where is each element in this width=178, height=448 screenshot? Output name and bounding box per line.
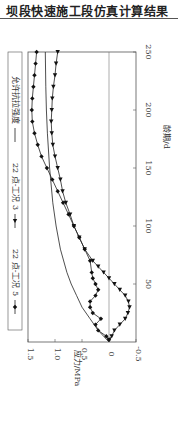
diamond-marker-icon <box>45 166 49 170</box>
triangle-marker-icon <box>112 328 116 332</box>
triangle-marker-icon <box>60 189 64 193</box>
triangle-marker-icon <box>49 120 53 124</box>
series-line-2 <box>51 52 129 340</box>
diamond-marker-icon <box>91 276 95 280</box>
diamond-marker-icon <box>31 85 35 89</box>
diamond-marker-icon <box>30 119 34 123</box>
triangle-marker-icon <box>56 166 60 170</box>
x-tick-label: 50 <box>144 279 153 289</box>
diamond-marker-icon <box>56 189 60 193</box>
y-axis-label: 应力/MPa <box>73 350 83 387</box>
triangle-marker-icon <box>50 131 54 135</box>
diamond-marker-icon <box>30 96 34 100</box>
x-tick-label: 150 <box>144 160 153 175</box>
triangle-marker-icon <box>50 108 54 112</box>
triangle-marker-icon <box>51 143 55 147</box>
x-tick-label: 250 <box>144 44 153 59</box>
triangle-marker-icon <box>123 294 127 298</box>
y-tick-label: -0.5 <box>134 346 143 361</box>
x-axis-label: 龄期/d <box>162 125 172 149</box>
y-tick-label: 1.5 <box>26 348 35 361</box>
legend-label-1: 22 点-工况 5 <box>11 249 20 296</box>
triangle-marker-icon <box>54 62 58 66</box>
diamond-marker-icon <box>36 143 40 147</box>
triangle-marker-icon <box>126 311 130 315</box>
series-line-1 <box>32 52 109 340</box>
triangle-marker-icon <box>127 305 131 309</box>
triangle-marker-icon <box>53 73 57 77</box>
legend-label-2: 22 点-工况 3 <box>11 163 20 210</box>
diamond-marker-icon <box>39 154 43 158</box>
y-tick-label: 0 <box>107 351 116 356</box>
stress-age-chart: -0.500.51.01.550100150200250应力/MPa龄期/d22… <box>0 20 178 448</box>
page-header: 坝段快速施工段仿真计算结果 <box>0 0 178 19</box>
diamond-marker-icon <box>96 288 100 292</box>
diamond-marker-icon <box>30 108 34 112</box>
triangle-marker-icon <box>51 85 55 89</box>
diamond-marker-icon <box>33 61 37 65</box>
triangle-marker-icon <box>58 178 62 182</box>
series-line-3 <box>45 52 109 342</box>
diamond-marker-icon <box>88 305 92 309</box>
y-tick-label: 1.0 <box>53 348 62 361</box>
page-title: 坝段快速施工段仿真计算结果 <box>6 2 169 19</box>
x-tick-label: 100 <box>144 218 153 233</box>
diamond-marker-icon <box>32 73 36 77</box>
triangle-marker-icon <box>53 154 57 158</box>
legend-label-3: 允许抗拉强度 <box>11 76 21 124</box>
triangle-marker-icon <box>126 299 130 303</box>
x-tick-label: 200 <box>144 102 153 117</box>
triangle-marker-icon <box>50 96 54 100</box>
diamond-marker-icon <box>90 270 94 274</box>
plot-frame <box>28 52 136 342</box>
diamond-marker-icon <box>93 282 97 286</box>
diamond-marker-icon <box>34 50 38 54</box>
chart-canvas: -0.500.51.01.550100150200250应力/MPa龄期/d22… <box>0 20 178 448</box>
diamond-marker-icon <box>32 131 36 135</box>
